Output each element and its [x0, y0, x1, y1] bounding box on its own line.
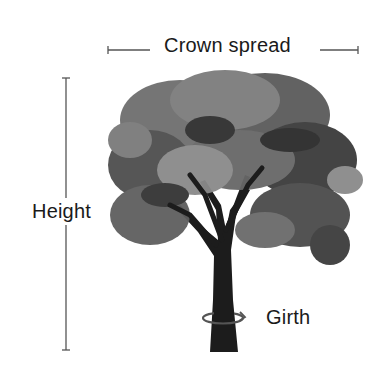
girth-label: Girth — [266, 306, 310, 329]
crown-spread-label: Crown spread — [160, 34, 295, 57]
height-label: Height — [32, 198, 91, 225]
tree-illustration — [108, 70, 363, 352]
